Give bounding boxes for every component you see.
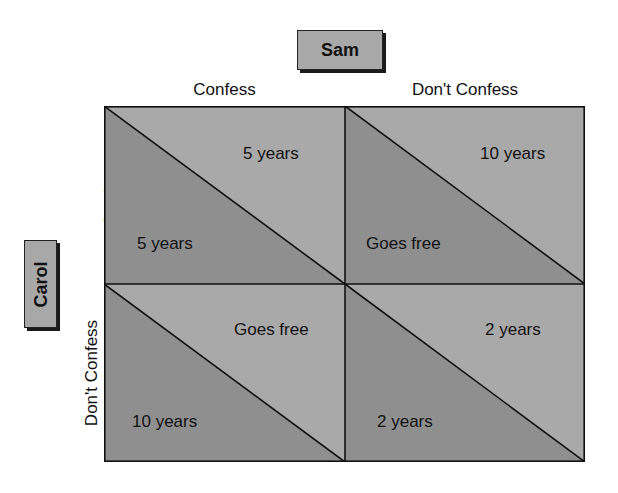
payoff-carol-carol-dont-sam-confess: 10 years — [132, 412, 197, 432]
payoff-carol-confess-confess: 5 years — [137, 234, 193, 254]
payoff-carol-dont-dont: 2 years — [377, 412, 433, 432]
payoff-sam-carol-dont-sam-confess: Goes free — [234, 320, 309, 340]
payoff-matrix: 5 years 5 years 10 years Goes free Goes … — [104, 106, 585, 462]
row-player-label: Carol — [24, 240, 57, 328]
column-strategy-confess: Confess — [104, 80, 345, 100]
row-player-name: Carol — [30, 261, 51, 307]
column-strategy-dont-confess: Don't Confess — [345, 80, 585, 100]
payoff-sam-carol-confess-sam-dont: 10 years — [480, 144, 545, 164]
column-player-name: Sam — [321, 40, 359, 61]
column-player-label: Sam — [297, 30, 383, 70]
payoff-sam-confess-confess: 5 years — [243, 144, 299, 164]
payoff-sam-dont-dont: 2 years — [485, 320, 541, 340]
payoff-carol-carol-confess-sam-dont: Goes free — [366, 234, 441, 254]
row-strategy-dont-confess: Don't Confess — [82, 284, 102, 462]
